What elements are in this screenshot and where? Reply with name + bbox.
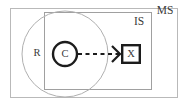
boundary-label-r: R xyxy=(33,47,40,58)
node-label-x: X xyxy=(127,48,135,59)
boundary-label-ms: MS xyxy=(157,4,174,16)
node-label-c: C xyxy=(61,48,68,59)
diagram-canvas: MS IS R C X xyxy=(0,0,183,106)
boundary-label-is: IS xyxy=(134,15,144,27)
nested-boundary-diagram: MS IS R C X xyxy=(0,0,183,106)
